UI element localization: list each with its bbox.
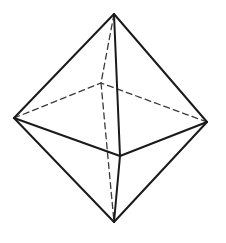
edge-top-front [114,14,120,156]
edge-left-bottom [14,118,114,222]
edge-top-right [114,14,207,122]
edge-front-bottom [114,156,120,222]
octahedron-diagram [0,0,226,243]
hidden-edge-left-back [14,83,101,118]
hidden-edges [14,14,207,222]
edge-top-left [14,14,114,118]
edge-left-front [14,118,120,156]
visible-edges [14,14,207,222]
edge-right-bottom [114,122,207,222]
octahedron-figure [0,0,226,243]
edge-right-front [120,122,207,156]
